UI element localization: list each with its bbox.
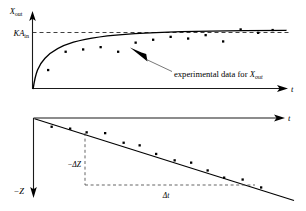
- lower-panel: −ΔZ Δt −Z t: [14, 113, 294, 201]
- data-point: [100, 46, 102, 48]
- delta-t-label: Δt: [162, 191, 170, 200]
- data-point: [207, 169, 209, 171]
- two-panel-scientific-figure: Xout t KAin experimental data for Xout: [0, 0, 306, 211]
- upper-y-axis-label: Xout: [9, 6, 23, 17]
- data-point: [82, 48, 84, 50]
- data-point: [170, 36, 172, 38]
- data-point: [117, 51, 119, 53]
- data-point: [174, 159, 176, 161]
- upper-fitted-exponential-curve: [33, 30, 286, 88]
- data-point: [222, 40, 224, 42]
- lower-x-axis-label: t: [288, 113, 291, 123]
- data-point: [260, 186, 262, 188]
- upper-panel: Xout t KAin experimental data for Xout: [9, 6, 294, 95]
- data-point: [69, 128, 71, 130]
- data-point: [272, 29, 274, 31]
- data-point: [155, 153, 157, 155]
- data-point: [139, 144, 141, 146]
- data-point: [123, 142, 125, 144]
- asymptote-label: KAin: [12, 28, 29, 39]
- data-point: [51, 126, 53, 128]
- data-point: [65, 51, 67, 53]
- data-point: [242, 178, 244, 180]
- lower-y-axis-label: −Z: [14, 186, 25, 196]
- data-point: [190, 162, 192, 164]
- data-point: [205, 34, 207, 36]
- data-point: [47, 69, 49, 71]
- data-point: [86, 131, 88, 133]
- caption-pointer-arrow: [130, 48, 172, 72]
- upper-x-axis-label: t: [291, 84, 294, 94]
- data-point: [104, 132, 106, 134]
- data-point: [187, 37, 189, 39]
- data-point: [223, 177, 225, 179]
- experimental-data-caption: experimental data for Xout: [174, 69, 263, 80]
- data-point: [257, 32, 259, 34]
- figure-container: Xout t KAin experimental data for Xout: [0, 0, 306, 211]
- data-point: [240, 28, 242, 30]
- delta-z-label: −ΔZ: [67, 160, 82, 169]
- data-point: [135, 42, 137, 44]
- data-point: [152, 39, 154, 41]
- upper-data-points: [47, 28, 274, 71]
